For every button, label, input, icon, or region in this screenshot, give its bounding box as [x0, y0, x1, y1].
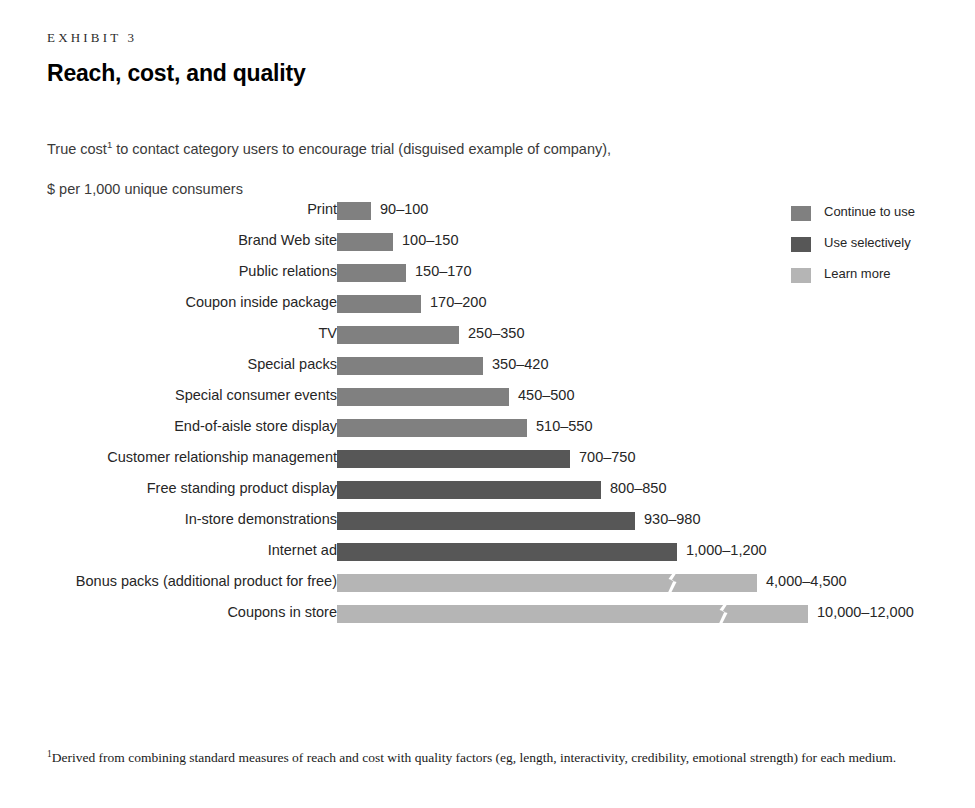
chart-bar	[337, 450, 570, 468]
legend-swatch-icon	[791, 206, 811, 221]
bar-category-label: Free standing product display	[17, 480, 337, 496]
bar-category-label: Internet ad	[17, 542, 337, 558]
legend-item[interactable]: Continue to use	[791, 203, 961, 234]
bar-value-label: 150–170	[415, 263, 471, 279]
bar-value-label: 450–500	[518, 387, 574, 403]
chart-bar-row: Coupons in store10,000–12,000	[0, 599, 975, 630]
chart-bar-row: Special consumer events450–500	[0, 382, 975, 413]
bar-value-label: 510–550	[536, 418, 592, 434]
bar-wrapper	[337, 605, 808, 623]
bar-category-label: Bonus packs (additional product for free…	[17, 573, 337, 589]
bar-category-label: End-of-aisle store display	[17, 418, 337, 434]
bar-category-label: In-store demonstrations	[17, 511, 337, 527]
chart-bar	[337, 388, 509, 406]
bar-value-label: 4,000–4,500	[766, 573, 847, 589]
bar-wrapper	[337, 574, 757, 592]
bar-wrapper	[337, 357, 483, 375]
bar-wrapper	[337, 233, 393, 251]
bar-category-label: Special consumer events	[17, 387, 337, 403]
bar-wrapper	[337, 202, 371, 220]
subtitle-text-post: to contact category users to encourage t…	[112, 141, 611, 157]
chart-bar	[337, 419, 527, 437]
legend-item[interactable]: Use selectively	[791, 234, 961, 265]
bar-category-label: Coupon inside package	[17, 294, 337, 310]
legend-swatch-icon	[791, 237, 811, 252]
bar-wrapper	[337, 481, 601, 499]
chart-bar	[337, 326, 459, 344]
bar-wrapper	[337, 543, 677, 561]
bar-wrapper	[337, 419, 527, 437]
footnote-text: Derived from combining standard measures…	[52, 750, 896, 765]
chart-bar-row: Customer relationship management700–750	[0, 444, 975, 475]
bar-value-label: 90–100	[380, 201, 428, 217]
chart-bar	[337, 295, 421, 313]
bar-wrapper	[337, 450, 570, 468]
subtitle-units: $ per 1,000 unique consumers	[47, 181, 243, 197]
bar-value-label: 800–850	[610, 480, 666, 496]
legend-label: Continue to use	[824, 204, 915, 219]
chart-bar	[337, 481, 601, 499]
legend-swatch-icon	[791, 268, 811, 283]
bar-category-label: Customer relationship management	[17, 449, 337, 465]
bar-category-label: Print	[17, 201, 337, 217]
chart-bar-row: In-store demonstrations930–980	[0, 506, 975, 537]
bar-category-label: Brand Web site	[17, 232, 337, 248]
subtitle-text-pre: True cost	[47, 141, 107, 157]
chart-bar	[337, 574, 757, 592]
chart-legend: Continue to useUse selectivelyLearn more	[791, 203, 961, 296]
bar-value-label: 930–980	[644, 511, 700, 527]
bar-wrapper	[337, 388, 509, 406]
bar-wrapper	[337, 326, 459, 344]
bar-value-label: 10,000–12,000	[817, 604, 914, 620]
chart-bar	[337, 543, 677, 561]
page-title: Reach, cost, and quality	[47, 60, 306, 87]
legend-label: Use selectively	[824, 235, 911, 250]
legend-item[interactable]: Learn more	[791, 265, 961, 296]
bar-category-label: TV	[17, 325, 337, 341]
chart-bar-row: Internet ad1,000–1,200	[0, 537, 975, 568]
bar-value-label: 700–750	[579, 449, 635, 465]
bar-value-label: 1,000–1,200	[686, 542, 767, 558]
exhibit-label: EXHIBIT 3	[47, 30, 137, 46]
chart-bar-row: Bonus packs (additional product for free…	[0, 568, 975, 599]
bar-category-label: Public relations	[17, 263, 337, 279]
bar-value-label: 170–200	[430, 294, 486, 310]
bar-wrapper	[337, 295, 421, 313]
bar-value-label: 350–420	[492, 356, 548, 372]
chart-bar-row: TV250–350	[0, 320, 975, 351]
chart-footnote: 1Derived from combining standard measure…	[47, 749, 927, 767]
chart-bar	[337, 605, 808, 623]
bar-value-label: 100–150	[402, 232, 458, 248]
legend-label: Learn more	[824, 266, 890, 281]
chart-bar	[337, 233, 393, 251]
bar-category-label: Coupons in store	[17, 604, 337, 620]
chart-bar-row: Free standing product display800–850	[0, 475, 975, 506]
chart-subtitle: True cost1 to contact category users to …	[47, 119, 611, 199]
chart-bar-row: End-of-aisle store display510–550	[0, 413, 975, 444]
chart-bar	[337, 202, 371, 220]
chart-bar	[337, 357, 483, 375]
chart-bar	[337, 512, 635, 530]
chart-bar-row: Special packs350–420	[0, 351, 975, 382]
bar-category-label: Special packs	[17, 356, 337, 372]
bar-wrapper	[337, 264, 406, 282]
chart-bar	[337, 264, 406, 282]
bar-value-label: 250–350	[468, 325, 524, 341]
bar-wrapper	[337, 512, 635, 530]
